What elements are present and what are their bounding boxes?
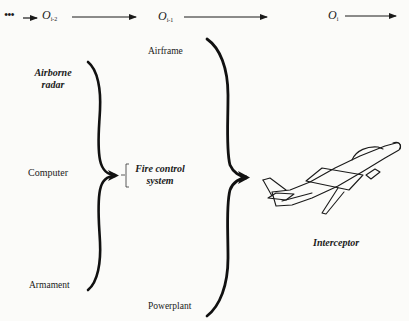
merge-brace-icon-level-1 bbox=[88, 62, 119, 290]
component-airborne-radar-line2: radar bbox=[25, 79, 81, 91]
stage-base: O bbox=[42, 8, 51, 22]
interceptor-label: Interceptor bbox=[313, 237, 359, 249]
diagram-canvas bbox=[0, 0, 409, 321]
jet-aircraft-icon bbox=[263, 142, 401, 214]
component-airborne-radar: Airborne radar bbox=[25, 67, 81, 90]
stage-label-i-minus-1: Oi-1 bbox=[158, 9, 173, 24]
fire-control-system-label: Fire control system bbox=[130, 163, 190, 186]
fire-control-system-line2: system bbox=[130, 175, 190, 187]
stage-label-i: Oi bbox=[328, 8, 338, 23]
component-armament: Armament bbox=[29, 280, 70, 291]
fire-control-bracket-icon bbox=[121, 164, 129, 187]
component-airborne-radar-line1: Airborne bbox=[25, 67, 81, 79]
component-computer: Computer bbox=[28, 167, 68, 179]
component-airframe: Airframe bbox=[148, 46, 183, 57]
stage-subscript: i-2 bbox=[51, 16, 58, 22]
stage-subscript: i bbox=[337, 16, 339, 22]
stage-label-i-minus-2: Oi-2 bbox=[42, 8, 57, 23]
fire-control-system-line1: Fire control bbox=[130, 163, 190, 175]
timeline-leading-dots: ••• bbox=[4, 9, 14, 23]
component-powerplant: Powerplant bbox=[148, 301, 191, 312]
stage-subscript: i-1 bbox=[167, 17, 174, 23]
stage-base: O bbox=[328, 8, 337, 22]
merge-brace-icon-level-2 bbox=[207, 39, 250, 316]
stage-base: O bbox=[158, 9, 167, 23]
